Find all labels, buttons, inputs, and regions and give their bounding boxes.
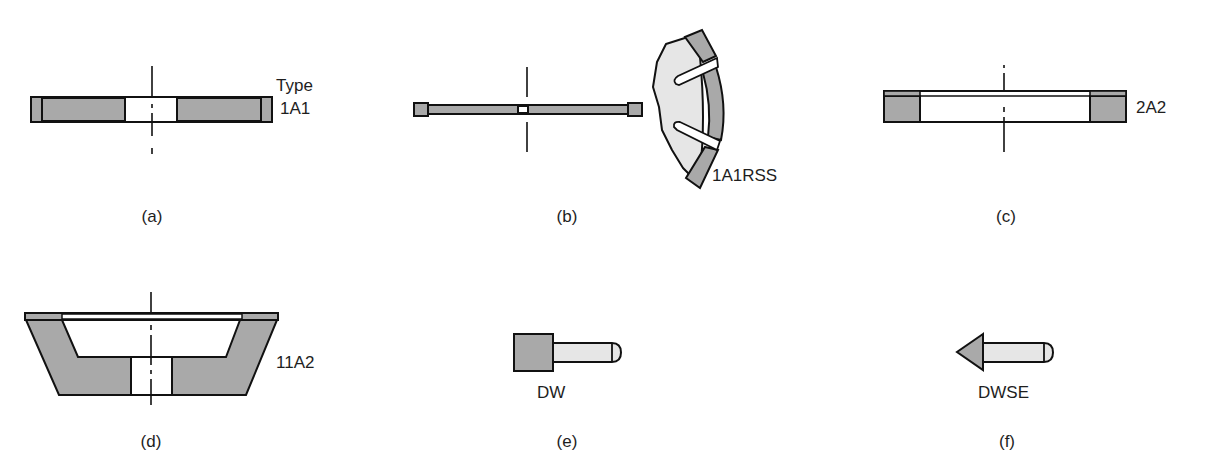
type-label-code: 1A1	[280, 99, 310, 118]
abrasive-wall-left	[884, 96, 920, 122]
wheel-core	[653, 37, 703, 178]
rim-segment-left	[414, 103, 428, 116]
caption-d: (d)	[141, 432, 162, 451]
grinding-wheel-types-figure: Type 1A1 (a) 1A1RSS (b)	[0, 0, 1205, 468]
caption-c: (c)	[996, 207, 1016, 226]
abrasive-cone-tip	[957, 334, 983, 370]
center-bore	[125, 97, 177, 122]
panel-a: Type 1A1 (a)	[31, 66, 313, 226]
abrasive-wall-right	[1090, 96, 1126, 122]
figure-canvas: Type 1A1 (a) 1A1RSS (b)	[0, 0, 1205, 468]
type-label: DWSE	[978, 383, 1029, 402]
panel-c: 2A2 (c)	[884, 65, 1166, 226]
center-bore	[518, 106, 528, 113]
panel-f: DWSE (f)	[957, 334, 1053, 451]
abrasive-segment-middle	[703, 67, 724, 140]
abrasive-head	[514, 334, 553, 371]
caption-b: (b)	[557, 207, 578, 226]
wheel-1a1rss-side-view	[414, 103, 642, 116]
caption-e: (e)	[557, 432, 578, 451]
caption-f: (f)	[999, 432, 1015, 451]
panel-b: 1A1RSS (b)	[414, 30, 777, 226]
type-label: 1A1RSS	[712, 166, 777, 185]
caption-a: (a)	[142, 207, 163, 226]
shank	[553, 343, 621, 362]
mounted-point-dw	[514, 334, 621, 371]
panel-d: 11A2 (d)	[25, 292, 314, 451]
type-label: 11A2	[276, 353, 314, 372]
wheel-2a2	[884, 91, 1126, 122]
type-label: DW	[537, 383, 565, 402]
type-label-word: Type	[276, 76, 313, 95]
type-label: 2A2	[1136, 98, 1166, 117]
mounted-point-dwse	[957, 334, 1053, 370]
rim-segment-right	[628, 103, 642, 116]
panel-e: DW (e)	[514, 334, 621, 451]
shank	[983, 343, 1053, 362]
segmented-rim-detail	[653, 30, 724, 188]
